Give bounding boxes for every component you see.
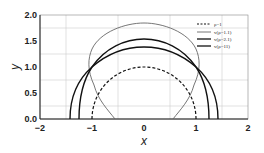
curve-v-rho-1.1 bbox=[89, 23, 199, 119]
legend-v-rho-2.1: v(ρ=2.1) bbox=[214, 37, 232, 42]
chart: 0.0 0.5 1.0 1.5 2.0 −2 −1 0 1 2 x y ρ=1 … bbox=[0, 0, 264, 153]
legend-v-rho-1.1: v(ρ=1.1) bbox=[214, 30, 232, 35]
svg-text:1: 1 bbox=[193, 123, 198, 133]
svg-text:0: 0 bbox=[141, 123, 146, 133]
curve-v-rho-11 bbox=[70, 47, 218, 119]
curve-rho-1 bbox=[92, 67, 196, 119]
y-tick-labels: 0.0 0.5 1.0 1.5 2.0 bbox=[24, 10, 37, 124]
svg-text:0.5: 0.5 bbox=[24, 88, 37, 98]
svg-text:1.5: 1.5 bbox=[24, 36, 37, 46]
svg-text:2.0: 2.0 bbox=[24, 10, 37, 20]
svg-text:2: 2 bbox=[245, 123, 250, 133]
legend-rho-1: ρ=1 bbox=[214, 22, 222, 27]
legend-v-rho-11: v(ρ=11) bbox=[214, 44, 230, 49]
svg-text:−1: −1 bbox=[87, 123, 97, 133]
svg-text:1.0: 1.0 bbox=[24, 62, 37, 72]
svg-text:−2: −2 bbox=[35, 123, 45, 133]
x-axis-label: x bbox=[140, 134, 148, 148]
legend: ρ=1 v(ρ=1.1) v(ρ=2.1) v(ρ=11) bbox=[197, 22, 232, 49]
curve-v-rho-2.1 bbox=[79, 39, 209, 119]
x-tick-labels: −2 −1 0 1 2 bbox=[35, 123, 251, 133]
y-axis-label: y bbox=[8, 63, 22, 71]
